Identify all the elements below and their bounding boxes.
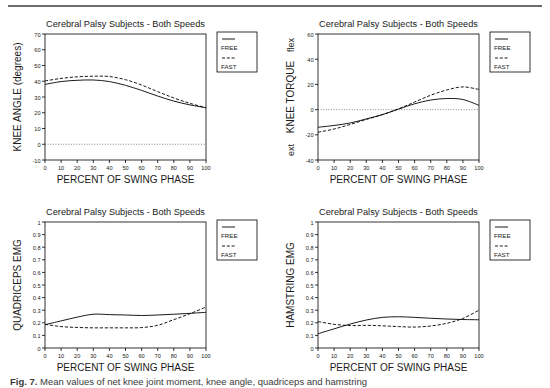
legend: FREEFAST [490, 220, 530, 260]
y-tick-label: 20 [307, 82, 313, 88]
x-tick-label: 80 [444, 353, 450, 359]
y-tick-label: 0 [37, 346, 40, 352]
x-tick-label: 10 [58, 165, 64, 171]
figure-cerebral-palsy-swing-phase: Cerebral Palsy Subjects - Both Speeds-10… [0, 0, 550, 388]
y-tick-label: 1 [310, 220, 313, 226]
y-axis-label: KNEE ANGLE (degrees) [12, 43, 23, 152]
y-tick-label: -20 [305, 132, 313, 138]
x-tick-label: 60 [411, 165, 417, 171]
x-tick-label: 90 [187, 353, 193, 359]
y-tick-label: 0 [310, 107, 313, 113]
y-tick-label: 0.5 [33, 283, 41, 289]
plot-frame [318, 222, 479, 348]
y-tick-label: 0.7 [306, 257, 314, 263]
x-tick-label: 70 [155, 165, 161, 171]
y-tick-label: 20 [34, 110, 40, 116]
legend-label-fast: FAST [221, 63, 237, 70]
x-tick-label: 40 [379, 165, 385, 171]
y-axis-label: HAMSTRING EMG [285, 242, 296, 328]
x-tick-label: 90 [460, 165, 466, 171]
chart-knee-angle: Cerebral Palsy Subjects - Both Speeds-10… [8, 12, 273, 194]
y-tick-label: 1 [37, 220, 40, 226]
y-tick-label: 40 [34, 79, 40, 85]
y-tick-label: 50 [34, 63, 40, 69]
x-tick-label: 30 [90, 353, 96, 359]
x-tick-label: 50 [395, 165, 401, 171]
x-tick-label: 50 [395, 353, 401, 359]
x-axis-label: PERCENT OF SWING PHASE [57, 362, 195, 373]
panel-title: Cerebral Palsy Subjects - Both Speeds [46, 207, 205, 217]
y-tick-label: 0.3 [33, 308, 41, 314]
y-tick-label: 0.1 [33, 333, 41, 339]
x-tick-label: 30 [363, 353, 369, 359]
x-tick-label: 30 [90, 165, 96, 171]
y-tick-label: 40 [307, 57, 313, 63]
x-tick-label: 0 [316, 353, 319, 359]
legend-label-fast: FAST [494, 251, 510, 258]
x-tick-label: 100 [201, 165, 210, 171]
legend: FREEFAST [217, 220, 257, 260]
series-line-free [318, 317, 479, 334]
legend-label-free: FREE [221, 44, 238, 51]
y-tick-label: 0.3 [306, 308, 314, 314]
plot-frame [45, 222, 206, 348]
y-tick-label: 0.8 [33, 245, 41, 251]
x-tick-label: 0 [43, 353, 46, 359]
y-axis-label-negative-direction: ext [286, 143, 296, 156]
legend-label-fast: FAST [221, 251, 237, 258]
x-axis-label: PERCENT OF SWING PHASE [57, 174, 195, 185]
x-tick-label: 0 [316, 165, 319, 171]
chart-knee-torque: Cerebral Palsy Subjects - Both Speeds-40… [281, 12, 546, 194]
x-tick-label: 0 [43, 165, 46, 171]
series-line-free [45, 312, 206, 324]
x-axis-label: PERCENT OF SWING PHASE [330, 362, 468, 373]
x-tick-label: 90 [187, 165, 193, 171]
panel-knee-angle: Cerebral Palsy Subjects - Both Speeds-10… [8, 12, 273, 194]
y-axis-label: QUADRICEPS EMG [12, 239, 23, 331]
y-tick-label: 0.6 [33, 270, 41, 276]
x-tick-label: 30 [363, 165, 369, 171]
legend: FREEFAST [217, 32, 257, 72]
x-tick-label: 40 [106, 353, 112, 359]
legend-label-free: FREE [494, 232, 511, 239]
y-tick-label: 0.2 [33, 320, 41, 326]
x-tick-label: 10 [58, 353, 64, 359]
y-axis-label: KNEE TORQUE [285, 60, 296, 133]
x-tick-label: 60 [411, 353, 417, 359]
legend: FREEFAST [490, 32, 530, 72]
series-line-free [45, 80, 206, 108]
panel-title: Cerebral Palsy Subjects - Both Speeds [319, 207, 478, 217]
x-tick-label: 70 [428, 353, 434, 359]
y-tick-label: 10 [34, 126, 40, 132]
y-tick-label: 70 [34, 32, 40, 38]
y-tick-label: 0.7 [33, 257, 41, 263]
series-line-free [318, 98, 479, 127]
x-tick-label: 70 [155, 353, 161, 359]
x-tick-label: 100 [201, 353, 210, 359]
y-tick-label: 0.4 [306, 295, 314, 301]
x-tick-label: 60 [138, 165, 144, 171]
y-tick-label: 0.9 [33, 232, 41, 238]
y-tick-label: 60 [34, 47, 40, 53]
x-tick-label: 10 [331, 353, 337, 359]
x-tick-label: 20 [347, 165, 353, 171]
legend-label-fast: FAST [494, 63, 510, 70]
y-tick-label: 0.6 [306, 270, 314, 276]
y-tick-label: 30 [34, 95, 40, 101]
x-tick-label: 100 [474, 353, 483, 359]
chart-quadriceps-emg: Cerebral Palsy Subjects - Both Speeds00.… [8, 200, 273, 382]
y-tick-label: 60 [307, 32, 313, 38]
x-tick-label: 100 [474, 165, 483, 171]
x-tick-label: 70 [428, 165, 434, 171]
y-tick-label: 0.4 [33, 295, 41, 301]
y-tick-label: 0.2 [306, 320, 314, 326]
panel-title: Cerebral Palsy Subjects - Both Speeds [319, 19, 478, 29]
legend-label-free: FREE [494, 44, 511, 51]
chart-hamstring-emg: Cerebral Palsy Subjects - Both Speeds00.… [281, 200, 546, 382]
x-tick-label: 20 [74, 165, 80, 171]
x-axis-label: PERCENT OF SWING PHASE [330, 174, 468, 185]
legend-label-free: FREE [221, 232, 238, 239]
y-tick-label: -40 [305, 158, 313, 164]
x-tick-label: 40 [106, 165, 112, 171]
x-tick-label: 20 [347, 353, 353, 359]
